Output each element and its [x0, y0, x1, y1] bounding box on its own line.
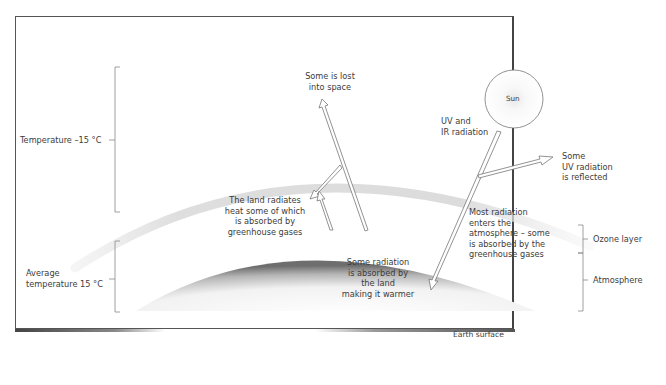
absorbed-by-land-label: Some radiation is absorbed by the land m… [335, 257, 421, 299]
earth-surface-label: Earth surface [453, 330, 504, 341]
average-temperature-label-line1: Average [26, 268, 60, 279]
land-radiates-arrow [317, 191, 333, 230]
upper-temperature-label: Temperature –15 °C [20, 135, 101, 146]
upper-temperature-bracket [109, 67, 120, 212]
sun-label: Sun [506, 94, 520, 105]
atmosphere-bracket [578, 253, 588, 311]
diagram-canvas: Temperature –15 °C Average temperature 1… [0, 0, 666, 385]
re-radiated-arrow [310, 165, 342, 199]
lower-temperature-bracket [109, 241, 120, 312]
most-radiation-label: Most radiation enters the atmosphere – s… [469, 207, 550, 260]
ozone-layer-label: Ozone layer [593, 234, 642, 245]
lost-to-space-label: Some is lost into space [290, 71, 370, 92]
uv-ir-radiation-label: UV and IR radiation [441, 116, 488, 137]
uv-reflected-label: Some UV radiation is reflected [562, 151, 613, 183]
land-radiates-label: The land radiates heat some of which is … [222, 195, 308, 237]
diagram-graphics [0, 0, 666, 385]
atmosphere-label: Atmosphere [593, 275, 643, 286]
average-temperature-label-line2: temperature 15 °C [26, 279, 103, 290]
